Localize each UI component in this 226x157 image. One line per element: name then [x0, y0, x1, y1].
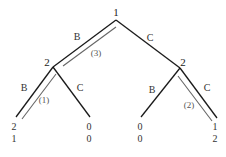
edge-root-left-B	[53, 20, 116, 67]
payoff-BB-player1: 2	[12, 121, 17, 132]
payoff-BC-player2: 0	[87, 133, 92, 144]
edge-right-B	[141, 68, 180, 117]
payoff-CC-player1: 1	[213, 121, 218, 132]
payoff-BC-player1: 0	[87, 121, 92, 132]
node-left-player-label: 2	[44, 56, 50, 68]
payoff-CB-player2: 0	[138, 133, 143, 144]
edge-root-right-C	[116, 20, 180, 68]
node-root-player-label: 1	[113, 6, 119, 18]
node-right-player-label: 2	[180, 56, 186, 68]
step-label-3: (3)	[91, 48, 102, 58]
edge-right-C	[180, 68, 217, 118]
highlight-root-left	[63, 27, 116, 66]
payoff-CB-player1: 0	[138, 121, 143, 132]
action-label-root-B: B	[74, 31, 81, 42]
payoff-BB-player2: 1	[12, 133, 17, 144]
step-label-1: (1)	[39, 95, 50, 105]
step-label-2: (2)	[184, 100, 195, 110]
action-label-root-C: C	[147, 32, 154, 43]
payoff-CC-player2: 2	[213, 133, 218, 144]
game-tree-diagram: 1 2 2 B C B C B C (3) (1) (2) 2 1 0 0 0 …	[0, 0, 226, 157]
action-label-right-C: C	[204, 82, 211, 93]
action-label-right-B: B	[149, 84, 156, 95]
action-label-left-B: B	[21, 82, 28, 93]
action-label-left-C: C	[77, 82, 84, 93]
edge-left-C	[53, 67, 90, 117]
